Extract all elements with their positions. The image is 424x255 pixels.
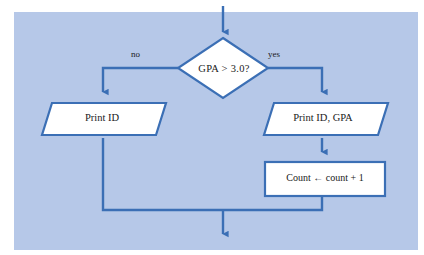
- count-increment-node: [265, 162, 385, 196]
- diagram-stage: GPA > 3.0? Print ID Print ID, GPA Count …: [0, 0, 424, 255]
- edge-printid-to-merge: [103, 138, 223, 210]
- flowchart-canvas: [0, 0, 424, 255]
- print-id-gpa-node: [264, 103, 388, 135]
- flowchart-image: GPA > 3.0? Print ID Print ID, GPA Count …: [0, 0, 424, 255]
- decision-node: [178, 38, 268, 98]
- print-id-node: [42, 103, 166, 135]
- edge-label-no: no: [131, 49, 140, 59]
- edge-no: [103, 68, 178, 92]
- edge-label-yes: yes: [268, 49, 280, 59]
- edge-yes: [268, 68, 322, 92]
- edge-count-to-merge: [223, 196, 322, 210]
